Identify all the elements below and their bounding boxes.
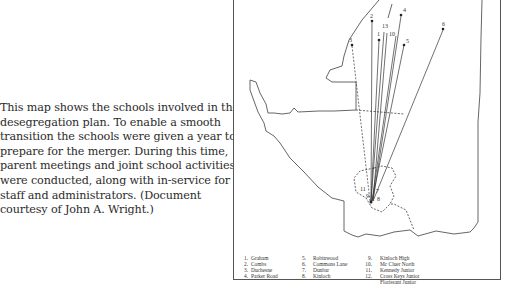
district-boundary	[250, 0, 482, 237]
map-label: 8	[377, 196, 380, 202]
district-map: 2 13 4 1 10 5 3 6 11 9 7 8	[234, 0, 502, 258]
map-label: 10	[389, 31, 395, 37]
map-label: 4	[403, 7, 406, 13]
map-label: 3	[349, 37, 352, 43]
map-label: 13	[382, 23, 388, 29]
map-label: 6	[442, 21, 445, 27]
map-label: 7	[376, 188, 379, 194]
map-label: 11	[360, 186, 366, 192]
map-label: 1	[377, 31, 380, 37]
school-map-figure: 2 13 4 1 10 5 3 6 11 9 7 8 1.Graham 2.Co…	[233, 0, 501, 280]
caption: This map shows the schools involved in t…	[0, 101, 240, 218]
caption-text: This map shows the schools involved in t…	[0, 101, 240, 218]
map-label: 5	[406, 38, 409, 44]
map-label: 9	[366, 193, 369, 199]
map-label: 2	[370, 13, 373, 19]
